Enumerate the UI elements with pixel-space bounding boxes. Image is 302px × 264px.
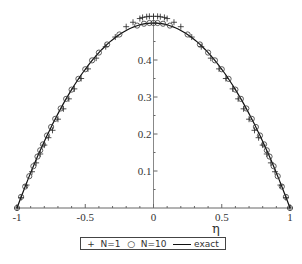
y-tick-labels: 0.10.20.30.4 [138, 54, 152, 177]
svg-text:0: 0 [151, 211, 157, 223]
chart: -1-0.500.51 0.10.20.30.4 η [0, 0, 302, 264]
plus-marker-icon: + [87, 239, 95, 249]
svg-text:1: 1 [287, 211, 293, 223]
legend-label-exact: exact [194, 239, 219, 249]
legend-item-n1: + N=1 [87, 239, 120, 249]
x-tick-labels: -1-0.500.51 [12, 211, 292, 223]
svg-text:0.1: 0.1 [138, 165, 152, 177]
svg-text:-1: -1 [12, 211, 21, 223]
circle-marker-icon: ○ [127, 239, 135, 249]
svg-text:0.3: 0.3 [138, 91, 152, 103]
svg-text:-0.5: -0.5 [77, 211, 95, 223]
x-axis-label: η [212, 221, 220, 236]
line-marker-icon [173, 244, 191, 245]
legend-label-n10: N=10 [141, 239, 167, 249]
axes [17, 14, 290, 208]
legend-item-n10: ○ N=10 [127, 239, 166, 249]
legend-label-n1: N=1 [101, 239, 121, 249]
legend-item-exact: exact [173, 239, 219, 249]
svg-text:0.2: 0.2 [138, 128, 152, 140]
svg-text:0.4: 0.4 [138, 54, 152, 66]
legend: + N=1 ○ N=10 exact [80, 237, 226, 250]
